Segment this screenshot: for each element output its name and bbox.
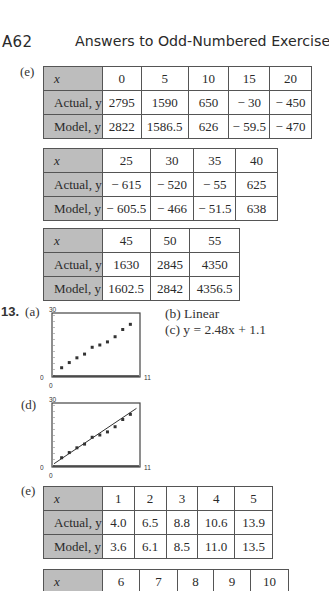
data-point — [91, 346, 94, 349]
cell: 3 — [166, 487, 198, 511]
data-point — [121, 328, 124, 331]
page-number: A62 — [2, 33, 32, 51]
svg-text:11: 11 — [144, 464, 151, 471]
cell: 4356.5 — [190, 277, 240, 301]
cell: 10.6 — [198, 511, 235, 535]
cell: − 615 — [102, 173, 150, 197]
cell: − 470 — [270, 115, 312, 139]
cell: 626 — [188, 115, 229, 139]
answer-table-1: x 0 5 10 15 20 Actual, y 2795 1590 650 −… — [43, 66, 312, 139]
data-point — [60, 456, 63, 459]
data-point — [106, 340, 109, 343]
svg-text:0: 0 — [49, 382, 53, 388]
cell: − 520 — [150, 173, 194, 197]
cell: 15 — [229, 67, 270, 91]
answer-table-3: x 45 50 55 Actual, y 1630 2845 4350 Mode… — [43, 228, 240, 301]
data-point — [91, 436, 94, 439]
part-b-answer: (b) Linear — [165, 306, 219, 322]
cell: 9 — [214, 570, 251, 591]
table-row-x: x 6 7 8 9 10 — [44, 570, 289, 591]
cell: 4.0 — [102, 511, 134, 535]
cell: − 450 — [270, 91, 312, 115]
row-label: Actual, y — [44, 173, 103, 197]
cell: 1 — [102, 487, 134, 511]
part-a-label: (a) — [25, 304, 39, 319]
row-label: x — [54, 153, 60, 168]
table-row-model: Model, y 1602.5 2842 4356.5 — [44, 277, 240, 301]
cell: 625 — [236, 173, 278, 197]
cell: 8 — [178, 570, 214, 591]
cell: 35 — [194, 149, 236, 173]
table-row-model: Model, y 2822 1586.5 626 − 59.5 − 470 — [44, 115, 312, 139]
cell: 30 — [150, 149, 194, 173]
cell: − 51.5 — [194, 197, 236, 221]
data-point — [98, 434, 101, 437]
cell: 45 — [102, 229, 150, 253]
table-row-model: Model, y 3.6 6.1 8.5 11.0 13.5 — [44, 535, 273, 559]
cell: 8.8 — [166, 511, 198, 535]
cell: 2 — [134, 487, 166, 511]
cell: 6.5 — [134, 511, 166, 535]
row-label: Model, y — [44, 277, 103, 301]
data-point — [114, 335, 117, 338]
cell: 55 — [190, 229, 240, 253]
exercise-number: 13. — [1, 304, 19, 319]
table-row-actual: Actual, y 4.0 6.5 8.8 10.6 13.9 — [44, 511, 273, 535]
cell: 1630 — [102, 253, 150, 277]
cell: 13.5 — [235, 535, 273, 559]
cell: 2822 — [102, 115, 141, 139]
cell: 5 — [141, 67, 188, 91]
data-point — [83, 353, 86, 356]
row-label: x — [54, 233, 60, 248]
cell: 2795 — [102, 91, 141, 115]
data-point — [121, 418, 124, 421]
cell: 1590 — [141, 91, 188, 115]
table-row-actual: Actual, y 2795 1590 650 − 30 − 450 — [44, 91, 312, 115]
svg-text:30: 30 — [49, 306, 57, 313]
data-point — [75, 356, 78, 359]
page-header-title: Answers to Odd-Numbered Exercises and Te… — [75, 33, 329, 49]
answer-table-13-1: x 1 2 3 4 5 Actual, y 4.0 6.5 8.8 10.6 1… — [43, 486, 273, 559]
cell: 25 — [102, 149, 150, 173]
row-label: x — [54, 491, 60, 506]
answer-table-13-2: x 6 7 8 9 10 — [43, 569, 289, 591]
cell: 8.5 — [166, 535, 198, 559]
cell: 1602.5 — [102, 277, 150, 301]
table-row-x: x 0 5 10 15 20 — [44, 67, 312, 91]
cell: 3.6 — [102, 535, 134, 559]
row-label: Model, y — [44, 197, 103, 221]
svg-text:0: 0 — [40, 464, 44, 471]
cell: 1586.5 — [141, 115, 188, 139]
part-e-label: (e) — [20, 64, 34, 80]
table-row-x: x 25 30 35 40 — [44, 149, 278, 173]
data-point — [129, 323, 132, 326]
cell: 20 — [270, 67, 312, 91]
data-point — [129, 413, 132, 416]
cell: 650 — [188, 91, 229, 115]
cell: 0 — [102, 67, 141, 91]
data-point — [75, 446, 78, 449]
table-row-model: Model, y − 605.5 − 466 − 51.5 638 — [44, 197, 278, 221]
row-label: x — [54, 574, 60, 589]
cell: − 59.5 — [229, 115, 270, 139]
row-label: Model, y — [44, 115, 103, 139]
cell: 4 — [198, 487, 235, 511]
answer-table-2: x 25 30 35 40 Actual, y − 615 − 520 − 55… — [43, 148, 278, 221]
scatter-plot-a: 30 0 0 11 — [40, 306, 155, 388]
svg-text:0: 0 — [49, 472, 53, 478]
data-point — [60, 366, 63, 369]
exercise-13-label: 13.(a) — [1, 304, 40, 320]
part-d-label: (d) — [21, 397, 36, 413]
cell: 4350 — [190, 253, 240, 277]
table-row-x: x 1 2 3 4 5 — [44, 487, 273, 511]
cell: 11.0 — [198, 535, 235, 559]
data-point — [68, 451, 71, 454]
row-label: x — [54, 71, 60, 86]
cell: 2845 — [150, 253, 190, 277]
svg-text:0: 0 — [40, 374, 44, 381]
cell: 7 — [140, 570, 178, 591]
data-point — [68, 361, 71, 364]
row-label: Model, y — [44, 535, 103, 559]
data-point — [83, 443, 86, 446]
cell: − 605.5 — [102, 197, 150, 221]
